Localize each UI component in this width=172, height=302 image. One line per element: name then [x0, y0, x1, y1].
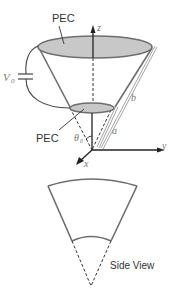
z-axis-arrow-icon	[91, 25, 96, 33]
side-view-extension-left	[72, 241, 91, 286]
radius-a-label: a	[112, 125, 117, 136]
z-axis-label: z	[96, 22, 101, 33]
side-view-outer-arc	[48, 179, 137, 186]
side-view-right-edge	[111, 186, 137, 241]
pec-plate-top	[38, 36, 152, 58]
theta-subscript: 0	[80, 138, 83, 144]
pec-plate-bottom	[70, 103, 114, 113]
radius-b-label: b	[131, 92, 136, 103]
biconical-antenna-diagram: PEC PEC V 0 z y x b a θ 0 Side View	[0, 0, 172, 302]
theta-arc	[86, 136, 92, 139]
side-view-inner-arc	[72, 237, 111, 242]
side-view-label: Side View	[110, 260, 155, 271]
theta-label: θ	[74, 132, 79, 143]
x-axis-label: x	[83, 158, 89, 169]
cone-extension-right	[92, 110, 111, 150]
side-view-left-edge	[48, 186, 72, 241]
pec-bottom-label: PEC	[36, 132, 59, 144]
voltage-label: V	[3, 71, 11, 83]
y-axis-label: y	[161, 140, 167, 151]
pec-top-label: PEC	[52, 12, 75, 24]
side-view-extension-right	[91, 241, 111, 286]
wire-top	[26, 46, 38, 74]
voltage-subscript: 0	[11, 77, 15, 85]
